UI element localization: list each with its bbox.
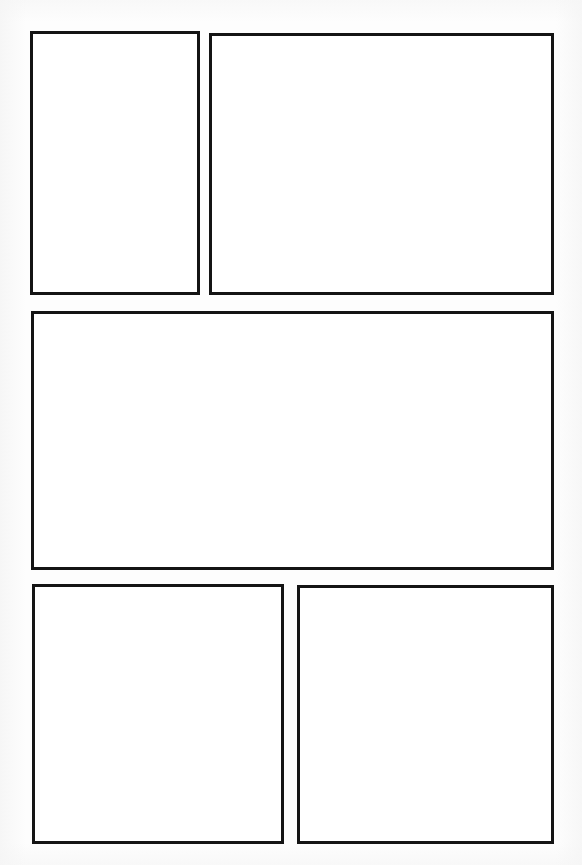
comic-panel-4-content <box>35 587 281 841</box>
comic-panel-2[interactable] <box>209 33 554 295</box>
comic-panel-3-content <box>34 314 551 567</box>
comic-panel-2-content <box>212 36 551 292</box>
comic-panel-5-content <box>300 588 551 841</box>
comic-panel-4[interactable] <box>32 584 284 844</box>
comic-panel-3[interactable] <box>31 311 554 570</box>
comic-panel-1-content <box>33 34 197 292</box>
comic-panel-5[interactable] <box>297 585 554 844</box>
comic-page <box>0 0 582 865</box>
comic-panel-1[interactable] <box>30 31 200 295</box>
